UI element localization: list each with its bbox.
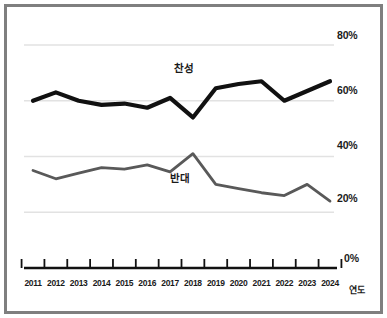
chart-screenshot: 80% 60% 40% 20% 0% 찬성 반대 연도 201120122013… bbox=[0, 0, 387, 318]
series-label-against: 반대 bbox=[170, 170, 190, 185]
series-label-for: 찬성 bbox=[174, 60, 194, 75]
chart-plot-area bbox=[0, 0, 387, 318]
y-tick-label-40: 40% bbox=[337, 139, 357, 151]
y-tick-label-0: 0% bbox=[344, 252, 359, 264]
y-tick-label-80: 80% bbox=[337, 29, 357, 41]
series-line-for bbox=[33, 81, 330, 117]
x-axis-ticks bbox=[22, 259, 342, 268]
y-tick-label-20: 20% bbox=[337, 192, 357, 204]
x-axis-title: 연도 bbox=[349, 283, 365, 296]
x-tick-label-2024: 2024 bbox=[317, 278, 343, 288]
y-tick-label-60: 60% bbox=[337, 84, 357, 96]
